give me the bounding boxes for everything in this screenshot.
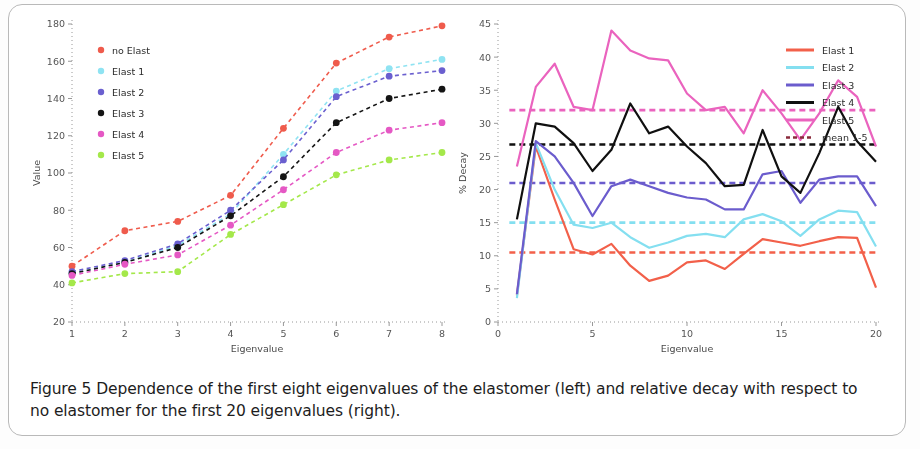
x-axis-label: Eigenvalue — [661, 343, 714, 354]
y-tick-label: 20 — [479, 184, 491, 195]
legend-marker — [98, 152, 104, 158]
legend: no ElastElast 1Elast 2Elast 3Elast 4Elas… — [98, 45, 150, 161]
x-axis-label: Eigenvalue — [231, 343, 284, 354]
x-tick-label: 5 — [589, 328, 595, 339]
data-point — [227, 192, 234, 199]
data-point — [227, 222, 234, 229]
data-point — [333, 119, 340, 126]
y-tick-label: 15 — [479, 217, 491, 228]
y-tick-label: 120 — [47, 130, 65, 141]
right-chart: 05101520253035404505101520Eigenvalue% De… — [450, 8, 890, 368]
legend-label: Elast 2 — [112, 87, 144, 98]
figure-image: 2040608010012014016018012345678Eigenvalu… — [14, 8, 890, 368]
y-tick-label: 140 — [47, 93, 65, 104]
legend-label: Elast 3 — [112, 108, 144, 119]
x-tick-label: 0 — [495, 328, 501, 339]
data-point — [333, 60, 340, 67]
series-line — [72, 123, 442, 276]
data-point — [121, 270, 128, 277]
legend-marker — [98, 110, 104, 116]
legend-label: Elast 4 — [822, 97, 854, 108]
data-point — [280, 173, 287, 180]
data-point — [386, 127, 393, 134]
data-point — [333, 171, 340, 178]
x-tick-label: 3 — [175, 328, 181, 339]
legend-label: Elast 5 — [822, 115, 854, 126]
figure-page: 2040608010012014016018012345678Eigenvalu… — [0, 0, 920, 449]
data-point — [333, 93, 340, 100]
legend-label: Elast 3 — [822, 80, 854, 91]
legend-marker — [98, 89, 104, 95]
x-tick-label: 2 — [122, 328, 128, 339]
x-tick-label: 6 — [333, 328, 339, 339]
x-tick-label: 1 — [69, 328, 75, 339]
data-point — [227, 212, 234, 219]
legend-label: Elast 1 — [112, 66, 144, 77]
legend-label: Elast 2 — [822, 62, 854, 73]
legend-label: no Elast — [112, 45, 150, 56]
x-tick-label: 8 — [439, 328, 445, 339]
data-point — [386, 65, 393, 72]
data-point — [386, 95, 393, 102]
y-tick-label: 45 — [479, 18, 491, 29]
data-point — [227, 231, 234, 238]
x-tick-label: 15 — [775, 328, 787, 339]
legend-label: Elast 4 — [112, 129, 144, 140]
data-point — [333, 149, 340, 156]
data-point — [439, 56, 446, 63]
data-point — [439, 119, 446, 126]
data-point — [280, 125, 287, 132]
data-point — [386, 34, 393, 41]
legend-label: mean 1-5 — [822, 132, 867, 143]
plot-area: 05101520253035404505101520Eigenvalue% De… — [457, 18, 882, 354]
y-tick-label: 0 — [485, 316, 491, 327]
y-tick-label: 40 — [479, 52, 491, 63]
data-point — [174, 268, 181, 275]
data-point — [121, 261, 128, 268]
charts-container: 2040608010012014016018012345678Eigenvalu… — [14, 8, 890, 368]
y-tick-label: 30 — [479, 118, 491, 129]
data-point — [121, 227, 128, 234]
data-point — [280, 157, 287, 164]
data-point — [69, 279, 76, 286]
legend-marker — [98, 68, 104, 74]
data-point — [280, 186, 287, 193]
data-point — [174, 244, 181, 251]
y-tick-label: 5 — [485, 283, 491, 294]
legend-label: Elast 5 — [112, 150, 144, 161]
plot-area: 2040608010012014016018012345678Eigenvalu… — [31, 18, 448, 354]
x-tick-label: 5 — [280, 328, 286, 339]
legend-label: Elast 1 — [822, 45, 854, 56]
y-tick-label: 10 — [479, 250, 491, 261]
data-point — [439, 22, 446, 29]
data-point — [69, 272, 76, 279]
data-point — [439, 67, 446, 74]
y-tick-label: 180 — [47, 18, 65, 29]
y-tick-label: 20 — [53, 316, 65, 327]
legend-marker — [98, 131, 104, 137]
y-tick-label: 25 — [479, 151, 491, 162]
legend-marker — [98, 47, 104, 53]
figure-caption: Figure 5 Dependence of the first eight e… — [30, 378, 878, 422]
y-tick-label: 60 — [53, 242, 65, 253]
data-point — [280, 201, 287, 208]
y-tick-label: 100 — [47, 167, 65, 178]
y-tick-label: 40 — [53, 279, 65, 290]
left-chart: 2040608010012014016018012345678Eigenvalu… — [14, 8, 454, 368]
x-tick-label: 10 — [681, 328, 693, 339]
data-point — [386, 73, 393, 80]
data-point — [439, 149, 446, 156]
data-point — [386, 157, 393, 164]
data-point — [174, 218, 181, 225]
y-tick-label: 160 — [47, 56, 65, 67]
x-tick-label: 4 — [228, 328, 234, 339]
series-line — [72, 71, 442, 272]
y-tick-label: 80 — [53, 205, 65, 216]
y-axis-label: Value — [31, 160, 42, 186]
series-line — [517, 143, 876, 298]
x-tick-label: 7 — [386, 328, 392, 339]
data-point — [174, 252, 181, 259]
data-point — [439, 86, 446, 93]
x-tick-label: 20 — [870, 328, 882, 339]
y-tick-label: 35 — [479, 85, 491, 96]
